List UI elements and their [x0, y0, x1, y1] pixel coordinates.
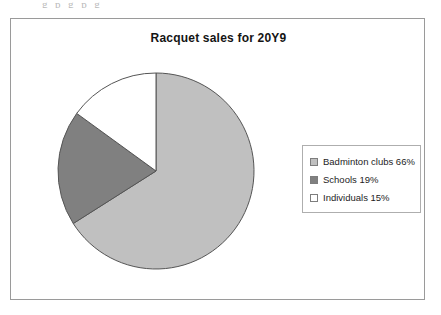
legend-item-schools[interactable]: Schools 19% [310, 171, 420, 189]
legend-label-badminton-clubs: Badminton clubs 66% [323, 157, 415, 167]
pie-chart [53, 68, 259, 274]
legend-swatch-badminton-clubs [310, 158, 318, 166]
legend-label-individuals: Individuals 15% [323, 193, 390, 203]
legend-label-schools: Schools 19% [323, 175, 378, 185]
chart-legend: Badminton clubs 66% Schools 19% Individu… [302, 145, 421, 213]
pie-slice-group [58, 73, 254, 269]
chart-frame: Racquet sales for 20Y9 Badminton clubs 6… [10, 18, 425, 300]
chart-title: Racquet sales for 20Y9 [11, 31, 426, 45]
legend-item-badminton-clubs[interactable]: Badminton clubs 66% [310, 153, 420, 171]
clipped-text-above-figure: g p g p g [0, 0, 441, 8]
legend-swatch-individuals [310, 194, 318, 202]
pie-svg [53, 68, 259, 274]
legend-swatch-schools [310, 176, 318, 184]
legend-item-individuals[interactable]: Individuals 15% [310, 189, 420, 207]
